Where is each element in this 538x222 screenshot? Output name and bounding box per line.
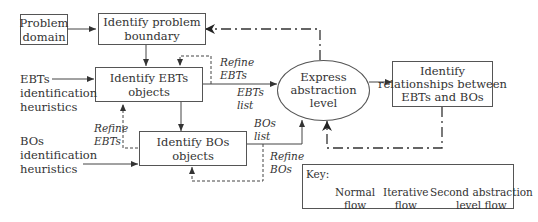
identify-bos-label: Identify BOs objects [157, 135, 230, 163]
ebts-list-label: EBTs list [237, 86, 264, 112]
express-abstraction-label: Express abstraction level [290, 71, 356, 110]
identify-ebts-label: Identify EBTs objects [110, 71, 188, 99]
identify-ebts-box: Identify EBTs objects [95, 67, 203, 102]
bos-list-label: BOs list [254, 117, 276, 143]
legend-normal-flow: Normal flow [335, 186, 375, 212]
express-abstraction-ellipse: Express abstraction level [277, 60, 370, 121]
ebts-heuristics-label: EBTs identification heuristics [20, 72, 97, 114]
legend-iterative-flow: Iterative flow [383, 186, 429, 212]
refine-ebts-left-label: Refine EBTs [94, 122, 128, 148]
legend-title: Key: [306, 168, 329, 181]
problem-domain-box: Problem domain [20, 14, 68, 45]
refine-ebts-top-label: Refine EBTs [220, 56, 254, 82]
identify-relationships-box: Identify relationships between EBTs and … [392, 61, 493, 107]
legend-second-abstraction-flow: Second abstraction level flow [430, 186, 533, 212]
problem-domain-label: Problem domain [20, 16, 69, 44]
identify-bos-box: Identify BOs objects [139, 131, 247, 166]
refine-bos-label: Refine BOs [270, 150, 304, 176]
identify-problem-boundary-box: Identify problem boundary [98, 13, 206, 45]
identify-relationships-label: Identify relationships between EBTs and … [378, 65, 507, 104]
identify-problem-boundary-label: Identify problem boundary [103, 15, 200, 43]
bos-heuristics-label: BOs identification heuristics [20, 134, 97, 176]
